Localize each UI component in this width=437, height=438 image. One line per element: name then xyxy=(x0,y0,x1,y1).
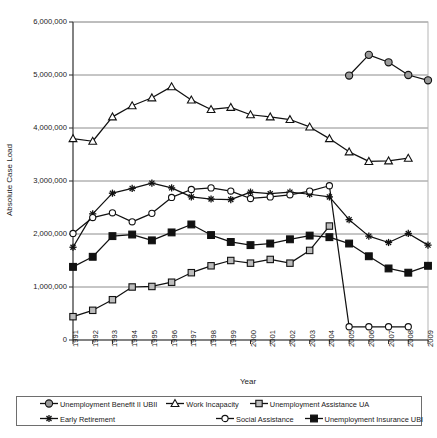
data-point-marker xyxy=(109,190,116,197)
legend-item-unemployment-insurance-ubi[interactable]: Unemployment Insurance UBI xyxy=(304,413,424,425)
legend-item-work-incapacity[interactable]: Work Incapacity xyxy=(165,398,238,410)
data-point-marker xyxy=(326,223,332,229)
x-tick-label: 2001 xyxy=(268,330,277,347)
legend-item-unemployment-assistance-ua[interactable]: Unemployment Assistance UA xyxy=(249,398,369,410)
data-point-marker xyxy=(70,313,76,319)
data-point-marker xyxy=(70,263,77,270)
y-tick-label: 2,000,000 xyxy=(33,229,67,238)
series-line xyxy=(73,87,408,162)
x-tick-label: 1993 xyxy=(110,330,119,347)
legend-row-1: Unemployment Benefit II UBII Work Incapa… xyxy=(17,397,421,412)
x-tick-label: 2003 xyxy=(308,330,317,347)
data-point-marker xyxy=(306,232,313,239)
data-point-marker xyxy=(168,229,175,236)
data-point-marker xyxy=(129,284,135,290)
data-point-marker xyxy=(45,400,52,407)
data-point-marker xyxy=(227,196,234,203)
data-point-marker xyxy=(90,307,96,313)
data-point-marker xyxy=(188,186,194,192)
legend-marker-triangle-open-icon xyxy=(165,398,185,410)
data-point-marker xyxy=(287,192,293,198)
data-point-marker xyxy=(365,51,372,58)
y-axis-title: Absolute Case Load xyxy=(5,144,14,216)
data-point-marker xyxy=(228,188,234,194)
data-point-marker xyxy=(287,260,293,266)
data-point-marker xyxy=(188,269,194,275)
y-tick-label: 6,000,000 xyxy=(33,17,67,26)
series-0 xyxy=(346,51,432,84)
data-point-marker xyxy=(227,103,235,110)
y-tick-label: 0 xyxy=(63,335,67,344)
data-point-marker xyxy=(208,185,214,191)
data-point-marker xyxy=(310,415,317,422)
data-point-marker xyxy=(129,231,136,238)
data-point-marker xyxy=(385,324,391,330)
data-point-marker xyxy=(222,416,228,422)
data-point-marker xyxy=(267,256,273,262)
data-point-marker xyxy=(405,324,411,330)
x-tick-label: 1996 xyxy=(170,330,179,347)
data-point-marker xyxy=(247,242,254,249)
series-3 xyxy=(69,180,431,251)
legend-label: Social Assistance xyxy=(236,416,294,423)
data-point-marker xyxy=(247,189,254,196)
data-point-marker xyxy=(346,216,353,223)
legend-marker-circle-dark-gray-icon xyxy=(39,398,59,410)
data-point-marker xyxy=(109,297,115,303)
data-point-marker xyxy=(385,239,392,246)
data-point-marker xyxy=(148,237,155,244)
x-tick-label: 2005 xyxy=(347,330,356,347)
data-point-marker xyxy=(168,83,176,90)
x-tick-label: 2004 xyxy=(327,330,336,347)
series-4 xyxy=(70,183,411,330)
chart-figure: 6,000,0005,000,0004,000,0003,000,0002,00… xyxy=(0,0,437,438)
x-tick-label: 1995 xyxy=(150,330,159,347)
data-point-marker xyxy=(187,96,195,103)
x-axis-ticks: 1991199219931994199519961997199819992000… xyxy=(71,330,435,347)
data-point-marker xyxy=(405,230,412,237)
legend-row-2: Early Retirement Social Assistance Unemp… xyxy=(17,412,421,427)
legend-marker-asterisk-icon xyxy=(39,413,59,425)
x-tick-label: 1991 xyxy=(71,330,80,347)
data-point-marker xyxy=(69,244,76,251)
data-point-marker xyxy=(366,324,372,330)
chart-legend: Unemployment Benefit II UBII Work Incapa… xyxy=(16,396,422,426)
x-tick-label: 2007 xyxy=(387,330,396,347)
data-point-marker xyxy=(346,324,352,330)
y-tick-label: 4,000,000 xyxy=(33,123,67,132)
data-point-marker xyxy=(228,257,234,263)
data-point-marker xyxy=(424,77,431,84)
data-point-marker xyxy=(247,195,253,201)
data-point-marker xyxy=(227,239,234,246)
data-point-marker xyxy=(208,232,215,239)
data-point-marker xyxy=(307,188,313,194)
data-point-marker xyxy=(326,183,332,189)
data-point-marker xyxy=(247,260,253,266)
legend-item-social-assistance[interactable]: Social Assistance xyxy=(215,413,294,425)
data-point-marker xyxy=(169,194,175,200)
x-tick-label: 1994 xyxy=(130,330,139,347)
legend-marker-square-gray-icon xyxy=(249,398,269,410)
data-point-marker xyxy=(188,193,195,200)
x-tick-label: 2002 xyxy=(288,330,297,347)
data-point-marker xyxy=(89,253,96,260)
data-point-marker xyxy=(267,240,274,247)
data-point-marker xyxy=(256,401,262,407)
legend-item-early-retirement[interactable]: Early Retirement xyxy=(39,413,115,425)
data-point-marker xyxy=(425,262,432,269)
x-tick-label: 2009 xyxy=(426,330,435,347)
data-point-marker xyxy=(149,283,155,289)
legend-label: Work Incapacity xyxy=(186,401,238,408)
x-tick-label: 2006 xyxy=(367,330,376,347)
data-point-marker xyxy=(208,263,214,269)
y-tick-label: 1,000,000 xyxy=(33,282,67,291)
legend-marker-circle-open-icon xyxy=(215,413,235,425)
legend-item-unemployment-benefit-ii-ubii[interactable]: Unemployment Benefit II UBII xyxy=(39,398,157,410)
data-point-marker xyxy=(385,265,392,272)
line-chart: 6,000,0005,000,0004,000,0003,000,0002,00… xyxy=(0,0,437,438)
data-point-marker xyxy=(45,415,52,422)
data-point-marker xyxy=(90,214,96,220)
data-point-marker xyxy=(70,230,76,236)
data-point-marker xyxy=(365,233,372,240)
data-point-marker xyxy=(149,210,155,216)
